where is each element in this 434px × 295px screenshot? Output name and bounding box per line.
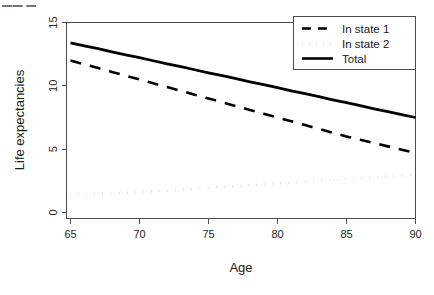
x-tick-65: 65 (64, 219, 76, 241)
x-tick-label-70: 70 (133, 228, 145, 240)
y-tick-label-15: 15 (47, 16, 59, 28)
legend-label-in-state-2: In state 2 (342, 38, 389, 50)
series-line-in-state-2 (71, 175, 416, 195)
x-axis-title: Age (229, 260, 252, 275)
legend-label-in-state-1: In state 1 (342, 23, 389, 35)
y-axis: 0 5 10 15 (47, 16, 67, 215)
x-tick-label-65: 65 (64, 228, 76, 240)
line-chart-plot: 0 5 10 15 65 70 (0, 0, 434, 295)
x-tick-80: 80 (271, 219, 283, 241)
x-axis: 65 70 75 80 85 90 (64, 219, 421, 241)
y-tick-5: 5 (47, 146, 67, 152)
x-tick-85: 85 (340, 219, 352, 241)
y-tick-15: 15 (47, 16, 67, 28)
x-tick-70: 70 (133, 219, 145, 241)
x-tick-label-85: 85 (340, 228, 352, 240)
y-tick-label-10: 10 (47, 80, 59, 92)
y-tick-0: 0 (47, 209, 67, 215)
x-tick-75: 75 (202, 219, 214, 241)
legend: In state 1 In state 2 Total (294, 17, 416, 70)
y-tick-label-5: 5 (47, 146, 59, 152)
y-tick-label-0: 0 (47, 209, 59, 215)
y-axis-title: Life expectancies (12, 69, 27, 170)
y-tick-10: 10 (47, 80, 67, 92)
chart-figure: ▬▬ ▬ 0 5 10 15 (0, 0, 434, 295)
x-tick-label-80: 80 (271, 228, 283, 240)
x-tick-90: 90 (409, 219, 421, 241)
legend-label-total: Total (342, 53, 366, 65)
x-tick-label-90: 90 (409, 228, 421, 240)
x-tick-label-75: 75 (202, 228, 214, 240)
